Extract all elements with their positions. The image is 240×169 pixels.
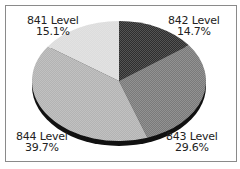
label-842: 842 Level 14.7%	[168, 15, 220, 37]
label-843-pct: 29.6%	[166, 142, 218, 153]
label-841-pct: 15.1%	[27, 26, 79, 37]
label-844-pct: 39.7%	[16, 142, 68, 153]
label-843: 843 Level 29.6%	[166, 131, 218, 153]
label-844: 844 Level 39.7%	[16, 131, 68, 153]
label-842-pct: 14.7%	[168, 26, 220, 37]
label-841: 841 Level 15.1%	[27, 15, 79, 37]
